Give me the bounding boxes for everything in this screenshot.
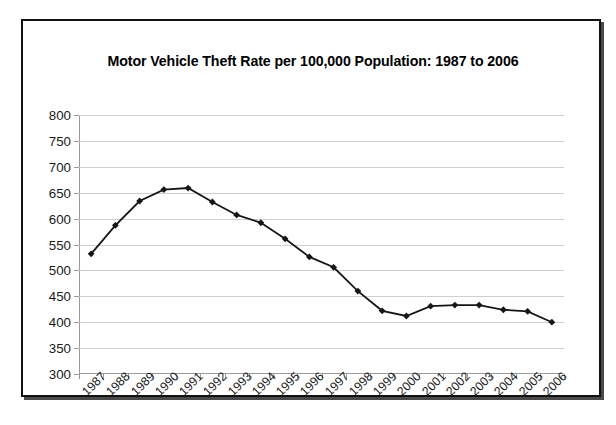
y-axis-label: 350 [49, 341, 71, 356]
data-point-marker [233, 212, 240, 219]
series-layer [79, 115, 564, 374]
data-point-marker [160, 186, 167, 193]
y-axis-label: 700 [49, 159, 71, 174]
data-point-marker [403, 313, 410, 320]
y-axis-label: 800 [49, 108, 71, 123]
plot-area: 3003504004505005506006507007508001987198… [79, 115, 564, 374]
y-axis-label: 400 [49, 315, 71, 330]
data-point-marker [524, 308, 531, 315]
chart-screenshot: Motor Vehicle Theft Rate per 100,000 Pop… [0, 0, 616, 425]
data-point-marker [451, 302, 458, 309]
chart-frame: Motor Vehicle Theft Rate per 100,000 Pop… [21, 19, 601, 397]
y-axis-label: 300 [49, 367, 71, 382]
y-axis-label: 600 [49, 211, 71, 226]
y-axis-label: 450 [49, 289, 71, 304]
x-axis-tick [79, 374, 80, 379]
data-point-marker [500, 306, 507, 313]
data-point-marker [476, 302, 483, 309]
data-point-marker [427, 303, 434, 310]
chart-title: Motor Vehicle Theft Rate per 100,000 Pop… [23, 53, 603, 69]
data-point-marker [548, 319, 555, 326]
y-axis-label: 750 [49, 133, 71, 148]
y-axis-label: 650 [49, 185, 71, 200]
y-axis-label: 550 [49, 237, 71, 252]
series-line [91, 188, 552, 322]
y-axis-label: 500 [49, 263, 71, 278]
